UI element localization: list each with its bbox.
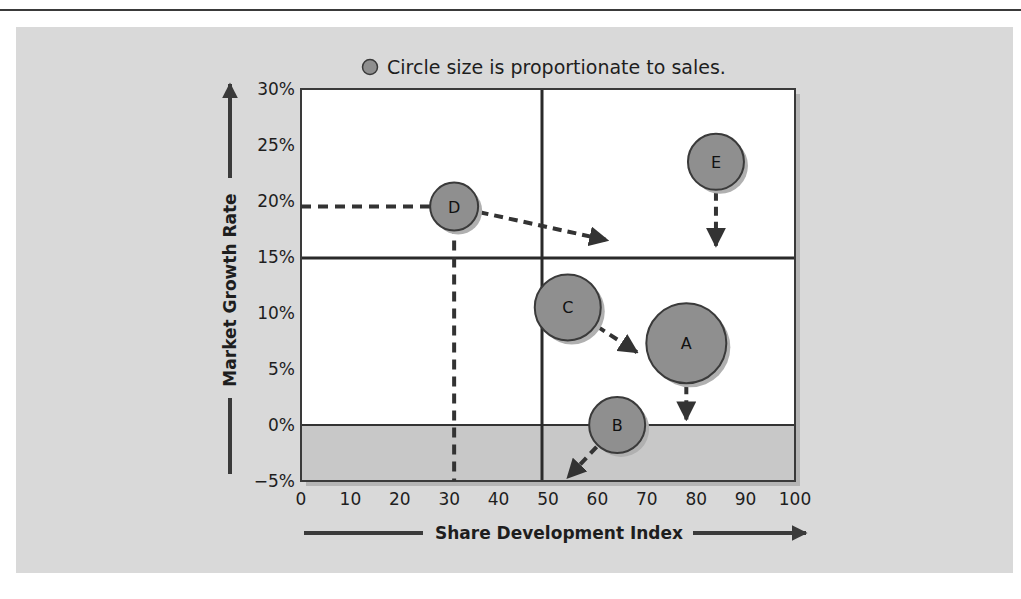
x-tick-label: 90: [735, 489, 757, 509]
y-tick-label: 5%: [268, 359, 295, 379]
y-tick-label: 0%: [268, 415, 295, 435]
y-tick-label: −5%: [254, 471, 295, 491]
x-tick-label: 60: [587, 489, 609, 509]
y-axis-title: Market Growth Rate: [220, 193, 240, 386]
x-tick-label: 0: [296, 489, 307, 509]
legend: Circle size is proportionate to sales.: [363, 56, 726, 78]
y-tick-label: 15%: [257, 247, 295, 267]
x-tick-label: 100: [779, 489, 811, 509]
x-tick-label: 70: [636, 489, 658, 509]
bubble-label: A: [681, 334, 692, 353]
legend-text: Circle size is proportionate to sales.: [387, 56, 726, 78]
x-axis-title: Share Development Index: [435, 523, 683, 543]
bubble-label: D: [448, 198, 460, 217]
bubble-label: C: [562, 298, 573, 317]
x-tick-label: 30: [438, 489, 460, 509]
x-tick-label: 10: [340, 489, 362, 509]
bubble-label: B: [612, 416, 623, 435]
bubble-label: E: [711, 153, 721, 172]
x-tick-label: 20: [389, 489, 411, 509]
y-tick-label: 25%: [257, 135, 295, 155]
y-tick-label: 30%: [257, 79, 295, 99]
negative-growth-band: [301, 425, 795, 481]
y-tick-label: 20%: [257, 191, 295, 211]
x-tick-label: 40: [488, 489, 510, 509]
bubble-chart: ABCDE30%25%20%15%10%5%0%−5%0102030405060…: [0, 0, 1021, 599]
y-tick-label: 10%: [257, 303, 295, 323]
x-tick-label: 50: [537, 489, 559, 509]
x-tick-label: 80: [685, 489, 707, 509]
circle-icon: [363, 60, 378, 75]
